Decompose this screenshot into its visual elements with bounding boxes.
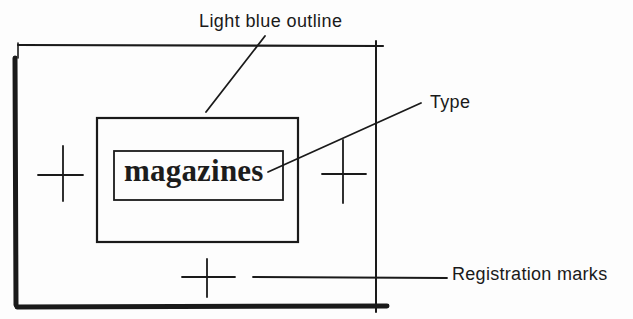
registration-mark-left — [38, 146, 83, 201]
label-light-blue-outline: Light blue outline — [199, 12, 342, 30]
print-registration-diagram: magazines Light blue outline Type Regist… — [0, 0, 633, 319]
leader-line-registration — [253, 277, 447, 278]
leader-line-type — [268, 103, 421, 172]
label-registration-marks: Registration marks — [452, 265, 607, 283]
leader-line-outline — [206, 36, 265, 112]
registration-mark-right — [322, 140, 366, 203]
label-type: Type — [430, 93, 470, 111]
registration-mark-bottom — [182, 259, 235, 297]
type-sample-text: magazines — [124, 155, 274, 186]
